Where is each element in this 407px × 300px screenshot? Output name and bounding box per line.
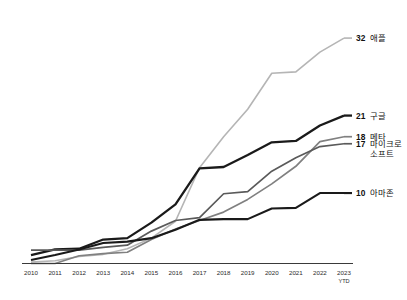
x-tick-2023: 2023 xyxy=(337,269,351,276)
end-label-name-0: 애플 xyxy=(370,33,386,43)
series-line-0 xyxy=(31,38,344,262)
x-tick-2014: 2014 xyxy=(120,269,134,276)
end-label-value-1: 21 xyxy=(356,111,366,121)
x-tick-2016: 2016 xyxy=(169,269,183,276)
line-chart: 2010201120122013201420152016201720182019… xyxy=(0,0,407,300)
x-tick-2020: 2020 xyxy=(265,269,279,276)
end-label-name-4: 아마존 xyxy=(370,188,394,198)
end-label-value-4: 10 xyxy=(356,188,366,198)
x-tick-2010: 2010 xyxy=(24,269,38,276)
chart-canvas: 2010201120122013201420152016201720182019… xyxy=(0,0,407,300)
end-label-value-0: 32 xyxy=(356,33,366,43)
x-tick-2011: 2011 xyxy=(48,269,62,276)
x-tick-2021: 2021 xyxy=(289,269,303,276)
x-tick-2013: 2013 xyxy=(96,269,110,276)
series-line-4 xyxy=(31,193,344,260)
series-line-2 xyxy=(31,137,344,264)
x-tick-2019: 2019 xyxy=(241,269,255,276)
x-tick-2012: 2012 xyxy=(72,269,86,276)
series-line-1 xyxy=(31,116,344,255)
x-tick-2018: 2018 xyxy=(217,269,231,276)
x-tick-2022: 2022 xyxy=(313,269,327,276)
end-label-name-1: 구글 xyxy=(370,111,386,121)
x-tick-sub-2023: YTD xyxy=(338,278,349,284)
series-end-labels: 32애플21구글18메타17마이크로소프트10아마존 xyxy=(344,33,402,198)
end-label-name-3: 마이크로 xyxy=(370,139,402,149)
x-tick-2015: 2015 xyxy=(144,269,158,276)
end-label-value-3: 17 xyxy=(356,139,366,149)
x-tick-2017: 2017 xyxy=(193,269,207,276)
series-line-3 xyxy=(31,144,344,250)
series-layer xyxy=(31,38,344,263)
x-axis-tick-labels: 2010201120122013201420152016201720182019… xyxy=(24,269,351,284)
end-label-name2-3: 소프트 xyxy=(370,149,394,159)
